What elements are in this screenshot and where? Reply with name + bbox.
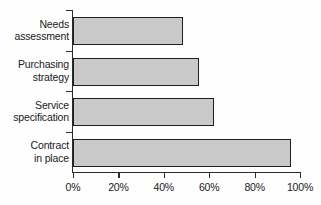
- value-tick-label: 0%: [66, 181, 81, 194]
- bar-row: [73, 91, 300, 132]
- category-label: Needsassessment: [3, 18, 69, 43]
- value-tick: [73, 172, 74, 178]
- value-tick-label: 80%: [244, 181, 264, 194]
- value-tick: [209, 172, 210, 178]
- category-label: Contractin place: [3, 139, 69, 164]
- category-label-line: Contract: [3, 139, 69, 152]
- bar: [73, 98, 214, 126]
- bar-chart: NeedsassessmentPurchasingstrategyService…: [0, 0, 321, 205]
- category-axis-labels: NeedsassessmentPurchasingstrategyService…: [0, 10, 69, 172]
- category-label-line: Needs: [3, 18, 69, 31]
- x-axis-line: [72, 172, 301, 173]
- bar-row: [73, 51, 300, 92]
- category-label: Servicespecification: [3, 99, 69, 124]
- value-tick: [255, 172, 256, 178]
- bar: [73, 58, 199, 86]
- bar: [73, 17, 183, 45]
- value-tick: [164, 172, 165, 178]
- bar-row: [73, 10, 300, 51]
- value-tick: [300, 172, 301, 178]
- category-label-line: assessment: [3, 30, 69, 43]
- plot-area: [73, 10, 300, 172]
- category-label-line: specification: [3, 111, 69, 124]
- value-tick: [118, 172, 119, 178]
- category-label-line: strategy: [3, 71, 69, 84]
- category-label-line: in place: [3, 152, 69, 165]
- value-tick-label: 20%: [108, 181, 128, 194]
- category-label-line: Purchasing: [3, 58, 69, 71]
- value-tick-label: 60%: [199, 181, 219, 194]
- value-tick-label: 40%: [154, 181, 174, 194]
- category-label: Purchasingstrategy: [3, 58, 69, 83]
- bar: [73, 139, 291, 167]
- category-label-line: Service: [3, 99, 69, 112]
- bar-row: [73, 132, 300, 173]
- value-tick-label: 100%: [287, 181, 313, 194]
